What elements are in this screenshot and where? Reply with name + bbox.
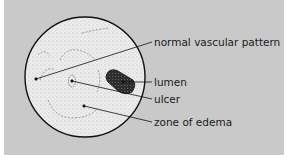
label-ulcer: ulcer bbox=[154, 93, 180, 105]
label-lumen: lumen bbox=[154, 76, 187, 88]
label-zone-of-edema: zone of edema bbox=[154, 116, 232, 128]
label-normal-vascular-pattern: normal vascular pattern bbox=[154, 36, 280, 48]
endoscopic-view-diagram bbox=[0, 0, 289, 163]
